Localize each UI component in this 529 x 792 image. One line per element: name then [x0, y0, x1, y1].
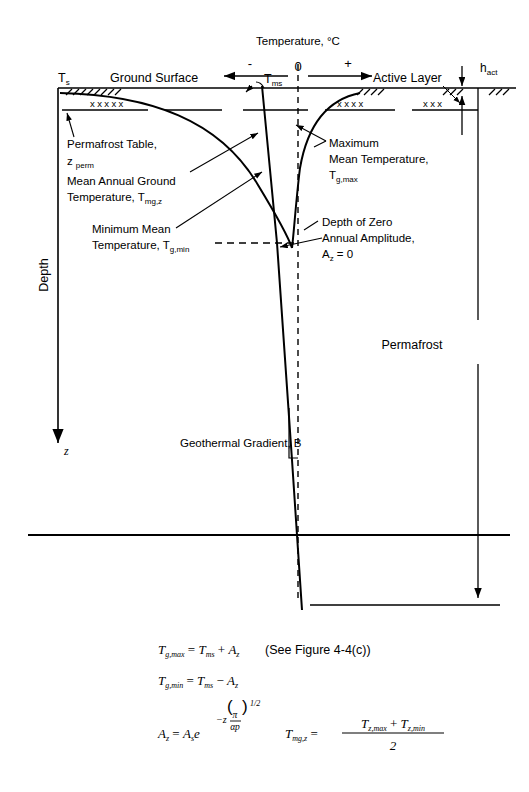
permafrost-table-annotation-line2: zperm	[67, 155, 94, 170]
equation-3-exponent-lead: −z	[216, 714, 227, 725]
plus-label: +	[344, 56, 352, 71]
mean-annual-leader	[190, 133, 258, 172]
equation-3-exponent-power: 1/2	[250, 699, 260, 708]
maximum-mean-leader	[296, 125, 326, 141]
mean-annual-annotation-line2: Temperature, Tmg,z	[67, 191, 162, 206]
maximum-mean-annotation-line3: Tg,max	[329, 169, 358, 184]
ground-surface-label: Ground Surface	[110, 71, 198, 85]
mean-annual-annotation-line1: Mean Annual Ground	[67, 175, 176, 187]
depth-axis-tip-label: z	[63, 444, 69, 458]
tms-leader-arrow	[246, 86, 252, 92]
minimum-mean-annotation-line2: Temperature, Tg,min	[92, 239, 189, 254]
svg-text:xxxxx: xxxxx	[90, 98, 126, 109]
surface-temperature-label: Ts	[58, 71, 70, 87]
temperature-axis-title: Temperature, °C	[256, 35, 340, 47]
equation-1-note: (See Figure 4-4(c))	[265, 643, 371, 657]
maximum-mean-annotation-line1: Maximum	[329, 137, 379, 149]
minimum-mean-annotation-line1: Minimum Mean	[92, 223, 171, 235]
permafrost-label: Permafrost	[381, 338, 443, 352]
minus-label: -	[248, 56, 252, 71]
permafrost-table-annotation-line1: Permafrost Table,	[67, 138, 157, 150]
active-layer-label: Active Layer	[373, 71, 442, 85]
tms-label: Tms	[264, 72, 282, 88]
maximum-mean-annotation-line2: Mean Temperature,	[329, 153, 429, 165]
mean-annual-ground-temperature-line	[262, 86, 302, 610]
ground-hatching-right	[357, 89, 509, 95]
permafrost-temperature-profile-figure: Temperature, °C 0 - + Ground Surface Act…	[0, 0, 529, 792]
permafrost-table-leader	[67, 113, 74, 137]
equation-4-numerator: Tz,max + Tz,min	[361, 716, 425, 733]
geothermal-gradient-label: Geothermal Gradient, B	[180, 437, 302, 449]
figure-svg: Temperature, °C 0 - + Ground Surface Act…	[0, 0, 529, 792]
equation-3-exponent-numerator: π	[233, 710, 238, 720]
depth-axis-label: Depth	[37, 258, 51, 291]
zero-amplitude-annotation-line1: Depth of Zero	[322, 216, 392, 228]
equation-2: Tg,min = Tms − Az	[158, 673, 239, 690]
equation-4-denominator: 2	[390, 738, 397, 753]
minimum-mean-leader	[176, 172, 262, 228]
zero-amplitude-annotation-line3: Az = 0	[322, 248, 353, 263]
zero-amp-leader	[280, 238, 322, 247]
zero-amp-leader-foot	[304, 221, 318, 230]
h-act-label: hact	[480, 61, 498, 77]
equation-4-lhs: Tmg,z =	[285, 726, 318, 743]
equation-3-exponent-denominator: αp	[230, 722, 240, 732]
equation-3-paren-close: )	[242, 697, 248, 716]
maximum-mean-leader-foot	[314, 141, 326, 147]
zero-amplitude-annotation-line2: Annual Amplitude,	[322, 232, 415, 244]
svg-text:xxx: xxx	[423, 98, 444, 109]
equation-3-base: Az = Ase	[157, 726, 200, 743]
equation-1: Tg,max = Tms + Az	[158, 642, 240, 659]
